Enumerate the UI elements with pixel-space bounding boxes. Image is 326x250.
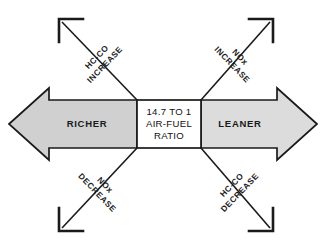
diagonal-label-lower-left: NOx DECREASE	[76, 163, 126, 214]
center-ratio-line-1: 14.7 TO 1	[146, 106, 191, 117]
air-fuel-ratio-diagram: RICHER LEANER 14.7 TO 1 AIR-FUEL RATIO H…	[0, 0, 326, 250]
diagonal-label-upper-right: NOx INCREASE	[213, 36, 261, 84]
diagonal-label-lower-left-line2: DECREASE	[76, 171, 118, 214]
center-ratio-line-3: RATIO	[154, 130, 184, 141]
center-ratio-line-2: AIR-FUEL	[146, 118, 192, 129]
diagram-canvas: RICHER LEANER 14.7 TO 1 AIR-FUEL RATIO H…	[0, 0, 326, 250]
leaner-label: LEANER	[218, 118, 261, 129]
diagonal-label-lower-right: HC-CO DECREASE	[211, 163, 261, 214]
richer-label: RICHER	[67, 118, 108, 129]
